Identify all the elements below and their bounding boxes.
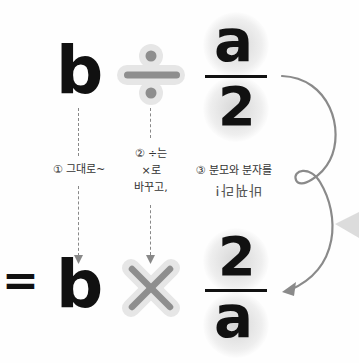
division-to-multiplication-diagram: b a 2 ① 그대로~ ② ÷는 ×로 바꾸고, ③ 분모와 분자를 바꿔라!… — [0, 0, 359, 363]
swap-arrow-icon — [0, 0, 359, 363]
